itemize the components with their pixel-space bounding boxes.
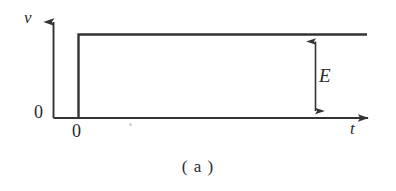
scan-speck-artifact (129, 123, 132, 126)
x-origin-tick-label: 0 (72, 122, 81, 140)
amplitude-label: E (319, 66, 331, 85)
y-origin-tick-label: 0 (34, 103, 43, 121)
y-axis-label: v (24, 9, 32, 26)
figure-caption: ( a ) (0, 157, 396, 177)
x-axis-label: t (350, 120, 355, 137)
figure-step-waveform: v t E 0 0 ( a ) (0, 0, 396, 191)
